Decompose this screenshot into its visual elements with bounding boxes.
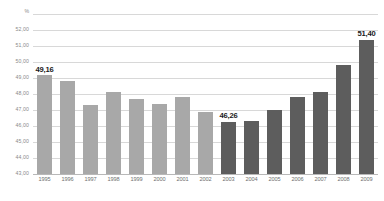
x-axis: 1995199619971998199920002001200220032004… <box>33 177 378 189</box>
y-axis-tick-label: 47,00 <box>0 107 29 112</box>
y-axis-tick-label: 52,00 <box>0 27 29 32</box>
x-axis-tick-label-1995: 1995 <box>33 177 56 183</box>
bar-2004[interactable] <box>244 121 259 174</box>
x-axis-tick-label-2007: 2007 <box>309 177 332 183</box>
y-axis-tick-label: 50,00 <box>0 59 29 64</box>
bar-slot <box>106 14 121 174</box>
bars-layer: 49,1646,2651,40 <box>33 14 378 174</box>
bar-slot: 49,16 <box>37 14 52 174</box>
bar-2006[interactable] <box>290 97 305 174</box>
bar-slot <box>313 14 328 174</box>
bar-2008[interactable] <box>336 65 351 174</box>
bar-1996[interactable] <box>60 81 75 174</box>
bar-2002[interactable] <box>198 112 213 174</box>
y-axis-tick-label: 45,00 <box>0 139 29 144</box>
x-axis-tick-label-2000: 2000 <box>148 177 171 183</box>
bar-slot: 46,26 <box>221 14 236 174</box>
y-axis-tick-label: 48,00 <box>0 91 29 96</box>
bar-slot <box>60 14 75 174</box>
bar-slot <box>290 14 305 174</box>
x-axis-tick-label-2003: 2003 <box>217 177 240 183</box>
x-axis-tick-label-2009: 2009 <box>355 177 378 183</box>
bar-slot <box>198 14 213 174</box>
x-axis-tick-label-2006: 2006 <box>286 177 309 183</box>
x-axis-tick-label-2004: 2004 <box>240 177 263 183</box>
bar-slot <box>267 14 282 174</box>
bar-value-label-1995: 49,16 <box>35 66 53 74</box>
bar-slot: 51,40 <box>359 14 374 174</box>
x-axis-tick-label-2005: 2005 <box>263 177 286 183</box>
bar-slot <box>152 14 167 174</box>
x-axis-tick-label-2001: 2001 <box>171 177 194 183</box>
bar-2009[interactable] <box>359 40 374 174</box>
y-axis-tick-label: 44,00 <box>0 155 29 160</box>
x-axis-tick-label-1997: 1997 <box>79 177 102 183</box>
bar-slot <box>175 14 190 174</box>
bar-2001[interactable] <box>175 97 190 174</box>
gridline <box>33 174 378 175</box>
bar-value-label-2009: 51,40 <box>357 30 375 38</box>
y-axis-tick-label: 49,00 <box>0 75 29 80</box>
y-axis-tick-label: 46,00 <box>0 123 29 128</box>
bar-slot <box>129 14 144 174</box>
bar-1999[interactable] <box>129 99 144 174</box>
x-axis-tick-label-1998: 1998 <box>102 177 125 183</box>
bar-2007[interactable] <box>313 92 328 174</box>
x-axis-tick-label-2002: 2002 <box>194 177 217 183</box>
bar-slot <box>83 14 98 174</box>
y-axis-tick-label: 51,00 <box>0 43 29 48</box>
bar-2005[interactable] <box>267 110 282 174</box>
x-axis-tick-label-1996: 1996 <box>56 177 79 183</box>
y-axis-unit-label: % <box>0 9 29 14</box>
bar-2003[interactable] <box>221 122 236 174</box>
bar-1998[interactable] <box>106 92 121 174</box>
bar-chart: % 52,0051,0050,0049,0048,0047,0046,0045,… <box>0 0 384 201</box>
bar-slot <box>336 14 351 174</box>
x-axis-tick-label-1999: 1999 <box>125 177 148 183</box>
x-axis-tick-label-2008: 2008 <box>332 177 355 183</box>
bar-slot <box>244 14 259 174</box>
bar-1997[interactable] <box>83 105 98 174</box>
bar-2000[interactable] <box>152 104 167 174</box>
y-axis-tick-label: 43,00 <box>0 171 29 176</box>
bar-value-label-2003: 46,26 <box>219 112 237 120</box>
bar-1995[interactable] <box>37 75 52 174</box>
